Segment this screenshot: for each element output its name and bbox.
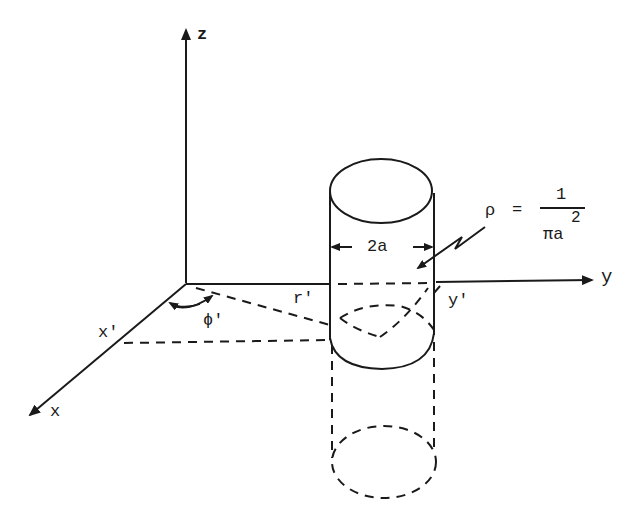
diagram-svg [0, 0, 634, 506]
x-prime-line [124, 340, 330, 343]
width-label: 2a [367, 238, 387, 255]
y-axis [436, 280, 592, 282]
x-axis [30, 284, 186, 415]
density-exponent: 2 [571, 210, 581, 226]
density-denominator: πa [543, 226, 563, 243]
density-numerator: 1 [556, 186, 566, 203]
y-prime-label: y' [448, 292, 468, 309]
x-axis-label: x [50, 403, 60, 420]
cylinder-bottom-arc [330, 333, 434, 369]
density-equals: = [512, 201, 522, 218]
density-symbol: ρ [485, 202, 495, 219]
y-axis-label: y [601, 268, 612, 287]
cylinder-top [330, 159, 432, 223]
z-axis-label: z [197, 26, 207, 43]
y-axis-hidden [338, 283, 432, 284]
diagram-canvas: z y x x' y' r' ϕ' 2a ρ = 1 πa 2 [0, 0, 634, 506]
x-prime-label: x' [98, 324, 118, 341]
lower-cylinder-bottom [332, 426, 436, 498]
r-prime-label: r' [293, 290, 313, 307]
phi-prime-label: ϕ' [203, 312, 223, 329]
